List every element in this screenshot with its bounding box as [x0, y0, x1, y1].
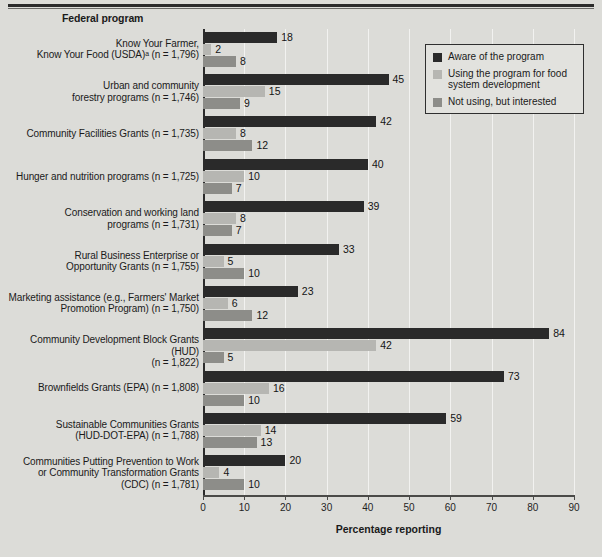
- category-label: Hunger and nutrition programs (n = 1,725…: [3, 171, 199, 183]
- category-label: Marketing assistance (e.g., Farmers' Mar…: [3, 292, 199, 315]
- x-tick-label: 70: [486, 502, 497, 513]
- bar-value-label: 15: [269, 86, 281, 97]
- bar: [203, 383, 269, 394]
- x-tick-label: 10: [239, 502, 250, 513]
- x-tick: [368, 495, 369, 500]
- bar: [203, 225, 232, 236]
- bar: [203, 128, 236, 139]
- x-tick: [492, 495, 493, 500]
- category-label-line: Rural Business Enterprise or: [3, 250, 199, 262]
- figure-canvas: Federal program Know Your Farmer,Know Yo…: [0, 0, 602, 557]
- bar-value-label: 33: [343, 244, 355, 255]
- bar: [203, 268, 244, 279]
- category-label-line: (HUD-DOT-EPA) (n = 1,788): [3, 430, 199, 442]
- bar-value-label: 6: [232, 298, 238, 309]
- legend-swatch-icon: [433, 98, 442, 107]
- bar-value-label: 20: [289, 455, 301, 466]
- bar-value-label: 10: [248, 268, 260, 279]
- bar: [203, 437, 257, 448]
- bar: [203, 98, 240, 109]
- bar-value-label: 42: [380, 116, 392, 127]
- bar-group: 40107: [203, 159, 574, 194]
- x-tick: [574, 495, 575, 500]
- chart-legend: Aware of the programUsing the program fo…: [425, 44, 584, 114]
- bar-value-label: 4: [223, 467, 229, 478]
- category-label: Rural Business Enterprise orOpportunity …: [3, 250, 199, 273]
- category-label-line: Conservation and working land: [3, 207, 199, 219]
- bar-value-label: 40: [372, 159, 384, 170]
- x-tick-label: 50: [404, 502, 415, 513]
- bar: [203, 74, 389, 85]
- x-tick: [203, 495, 204, 500]
- legend-label: Aware of the program: [448, 51, 544, 63]
- bar: [203, 340, 376, 351]
- category-label-line: Hunger and nutrition programs (n = 1,725…: [3, 171, 199, 183]
- category-label-line: Promotion Program) (n = 1,750): [3, 303, 199, 315]
- x-tick-label: 30: [321, 502, 332, 513]
- category-label-line: (CDC) (n = 1,781): [3, 479, 199, 491]
- bar: [203, 256, 224, 267]
- top-rule: [8, 4, 594, 7]
- bar-group: 33510: [203, 244, 574, 279]
- bar-value-label: 45: [393, 74, 405, 85]
- category-label: Sustainable Communities Grants(HUD-DOT-E…: [3, 419, 199, 442]
- category-label-line: forestry programs (n = 1,746): [3, 92, 199, 104]
- bar: [203, 479, 244, 490]
- bar-group: 3987: [203, 201, 574, 236]
- category-label: Know Your Farmer,Know Your Food (USDA)ᵃ …: [3, 38, 199, 61]
- bar-value-label: 5: [228, 256, 234, 267]
- column-header-federal-program: Federal program: [62, 12, 202, 24]
- bar: [203, 352, 224, 363]
- x-tick: [285, 495, 286, 500]
- category-label: Conservation and working landprograms (n…: [3, 207, 199, 230]
- category-label-line: Know Your Food (USDA)ᵃ (n = 1,796): [3, 49, 199, 61]
- bar: [203, 56, 236, 67]
- category-label: Brownfields Grants (EPA) (n = 1,808): [3, 382, 199, 394]
- category-label-line: or Community Transformation Grants: [3, 467, 199, 479]
- legend-label: Not using, but interested: [448, 96, 556, 108]
- bar-value-label: 12: [256, 140, 268, 151]
- category-label-line: Brownfields Grants (EPA) (n = 1,808): [3, 382, 199, 394]
- bar-value-label: 10: [248, 479, 260, 490]
- bar-group: 731610: [203, 371, 574, 406]
- bar: [203, 86, 265, 97]
- x-tick: [327, 495, 328, 500]
- bar-value-label: 5: [228, 352, 234, 363]
- bar-group: 84425: [203, 328, 574, 363]
- bar-value-label: 23: [302, 286, 314, 297]
- bar-value-label: 7: [236, 225, 242, 236]
- category-label: Community Facilities Grants (n = 1,735): [3, 128, 199, 140]
- bar: [203, 467, 219, 478]
- bar-value-label: 13: [261, 437, 273, 448]
- bar-value-label: 39: [368, 201, 380, 212]
- x-axis-line: [203, 495, 574, 497]
- bar: [203, 244, 339, 255]
- legend-swatch-icon: [433, 70, 442, 79]
- x-tick-label: 40: [362, 502, 373, 513]
- bar-group: 42812: [203, 116, 574, 151]
- x-tick-label: 20: [280, 502, 291, 513]
- legend-swatch-icon: [433, 53, 442, 62]
- x-tick: [244, 495, 245, 500]
- category-label-line: Sustainable Communities Grants: [3, 419, 199, 431]
- bar: [203, 455, 285, 466]
- category-label-line: Know Your Farmer,: [3, 38, 199, 50]
- bar-group: 23612: [203, 286, 574, 321]
- bar: [203, 183, 232, 194]
- legend-item: Using the program for food system develo…: [433, 68, 576, 91]
- category-label-line: Community Facilities Grants (n = 1,735): [3, 128, 199, 140]
- category-label-line: Opportunity Grants (n = 1,755): [3, 261, 199, 273]
- category-label-line: Communities Putting Prevention to Work: [3, 456, 199, 468]
- bar-group: 591413: [203, 413, 574, 448]
- category-label: Urban and communityforestry programs (n …: [3, 80, 199, 103]
- bar: [203, 159, 368, 170]
- category-label-line: Urban and community: [3, 80, 199, 92]
- bar: [203, 371, 504, 382]
- legend-item: Aware of the program: [433, 51, 576, 63]
- bar: [203, 32, 277, 43]
- category-label: Communities Putting Prevention to Workor…: [3, 456, 199, 491]
- x-tick: [533, 495, 534, 500]
- bar-value-label: 42: [380, 340, 392, 351]
- x-tick-label: 80: [527, 502, 538, 513]
- bar-group: 20410: [203, 455, 574, 490]
